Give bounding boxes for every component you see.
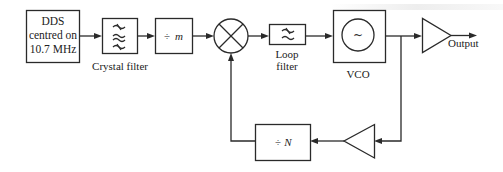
crystal-filter-label: Crystal filter (92, 60, 148, 72)
loop-filter-label-line2: filter (276, 60, 298, 72)
crystal-filter-block: Crystal filter (92, 19, 148, 73)
amplifier-icon (423, 19, 452, 53)
divide-m-variable: m (175, 30, 183, 42)
arrowhead-icon (206, 33, 214, 39)
dds-block: DDS centred on 10.7 MHz (27, 11, 80, 63)
vco-block: ~ VCO (334, 11, 386, 81)
arrowhead-icon (310, 138, 318, 144)
loop-filter-label-line1: Loop (275, 48, 299, 60)
dds-label-line3: 10.7 MHz (30, 43, 77, 55)
divide-by-n-block: ÷ N (256, 125, 311, 161)
output-amplifier-block: Output (423, 19, 479, 53)
mixer-block (214, 19, 248, 53)
loop-filter-block: Loop filter (270, 25, 306, 73)
amplifier-icon (344, 125, 375, 159)
sine-wave-icon: ~ (353, 28, 363, 42)
dds-label-line1: DDS (41, 15, 64, 27)
arrowhead-icon (325, 33, 333, 39)
output-label: Output (448, 37, 479, 49)
arrowhead-icon (261, 33, 269, 39)
feedback-amplifier-block (344, 125, 375, 159)
dds-label-line2: centred on (29, 29, 77, 41)
arrowhead-icon (414, 33, 422, 39)
divide-n-variable: N (283, 136, 292, 148)
wire-divn-to-mixer (231, 61, 256, 141)
arrowhead-icon (374, 138, 382, 144)
pll-block-diagram: DDS centred on 10.7 MHz Crystal filter ÷… (0, 0, 503, 172)
divide-by-m-block: ÷ m (156, 19, 193, 54)
arrowhead-icon (147, 33, 155, 39)
divide-icon: ÷ (164, 30, 170, 42)
vco-label: VCO (346, 68, 369, 80)
arrowhead-icon (228, 53, 234, 61)
divide-icon: ÷ (275, 136, 281, 148)
arrowhead-icon (94, 33, 102, 39)
